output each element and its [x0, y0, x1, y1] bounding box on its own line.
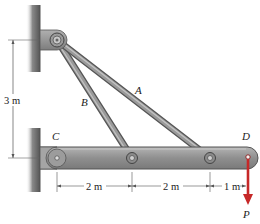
rod-B	[56, 40, 132, 158]
label-B: B	[81, 96, 88, 108]
beam-CD	[40, 147, 258, 169]
label-P: P	[242, 208, 250, 220]
dimension-label-BA: 2 m	[163, 181, 179, 192]
top-wall-support	[26, 5, 40, 72]
label-A: A	[134, 84, 142, 96]
rod-A	[57, 39, 210, 158]
dimension-label-CB: 2 m	[86, 181, 102, 192]
pin-C	[55, 156, 59, 160]
dimension-label-AD: 1 m	[224, 181, 240, 192]
bottom-wall-support	[26, 128, 40, 192]
label-C: C	[52, 130, 60, 142]
label-D: D	[241, 130, 250, 142]
pin-A	[205, 153, 216, 164]
truss-diagram: 3 m	[0, 0, 260, 224]
pin-B	[127, 153, 138, 164]
top-pin-bracket	[40, 30, 67, 50]
dimension-label-vertical: 3 m	[4, 95, 20, 106]
point-D	[246, 155, 250, 159]
